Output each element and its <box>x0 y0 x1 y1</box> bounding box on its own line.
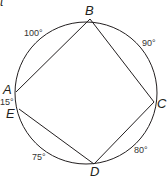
circle <box>15 22 157 164</box>
point-label-a: A <box>2 82 12 97</box>
point-label-b: B <box>85 3 94 18</box>
inscribed-polygon-diagram: t A B C D E 100° 90° 80° 75° 15° <box>0 0 167 177</box>
arc-label-ab: 100° <box>24 28 43 38</box>
point-label-d: D <box>90 164 99 177</box>
arc-label-bc: 90° <box>142 38 156 48</box>
arc-label-ea: 15° <box>0 97 14 107</box>
point-label-e: E <box>6 106 15 121</box>
arc-label-cd: 80° <box>134 145 148 155</box>
corner-fragment: t <box>0 0 4 9</box>
arc-label-de: 75° <box>32 152 46 162</box>
point-label-c: C <box>157 96 167 111</box>
